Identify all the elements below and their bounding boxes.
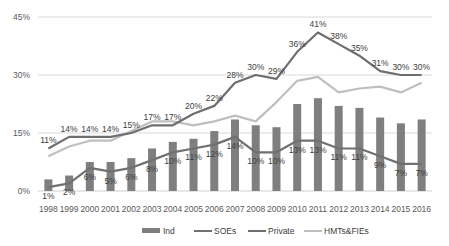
private-data-label: 28% (226, 70, 243, 80)
x-tick-label: 2004 (163, 204, 182, 214)
soes-data-label: 11% (330, 152, 347, 162)
x-tick-label: 2000 (80, 204, 99, 214)
ind-bar (418, 119, 426, 191)
soes-data-label: 6% (125, 172, 138, 182)
x-tick-label: 2001 (101, 204, 120, 214)
legend-ind-label: Ind (163, 226, 175, 236)
ind-bar (190, 139, 198, 191)
private-data-label: 17% (144, 112, 161, 122)
x-tick-label: 2005 (184, 204, 203, 214)
soes-data-label: 11% (351, 152, 368, 162)
x-tick-label: 2015 (391, 204, 410, 214)
x-tick-label: 1998 (39, 204, 58, 214)
legend-soes-label: SOEs (214, 226, 236, 236)
soes-data-label: 7% (395, 168, 408, 178)
legend-ind-swatch (142, 228, 160, 233)
private-data-label: 31% (372, 58, 389, 68)
private-data-label: 15% (123, 120, 140, 130)
soes-data-label: 8% (146, 164, 159, 174)
soes-data-label: 10% (268, 156, 285, 166)
private-data-label: 14% (102, 124, 119, 134)
soes-data-label: 12% (206, 149, 223, 159)
legend-hmts-label: HMTs&FIEs (324, 226, 369, 236)
x-tick-label: 2011 (309, 204, 328, 214)
private-data-label: 11% (40, 135, 57, 145)
soes-data-label: 11% (185, 152, 202, 162)
soes-data-label: 14% (226, 141, 243, 151)
x-axis-ticks: 1998199920002001200220032004200520062007… (39, 204, 431, 214)
private-data-label: 29% (268, 66, 285, 76)
ind-bar (231, 119, 239, 191)
private-data-label: 30% (413, 62, 430, 72)
private-data-label: 22% (206, 93, 223, 103)
soes-data-label: 13% (309, 145, 326, 155)
private-data-label: 14% (81, 124, 98, 134)
private-data-label: 14% (61, 124, 78, 134)
private-data-label: 38% (330, 31, 347, 41)
soes-data-label: 10% (164, 156, 181, 166)
soes-data-label: 7% (415, 168, 428, 178)
private-data-label: 41% (309, 19, 326, 29)
ind-bar (169, 142, 177, 191)
y-tick-label: 45% (13, 12, 30, 22)
ind-bar (210, 131, 218, 191)
private-data-label: 35% (351, 43, 368, 53)
x-tick-label: 2013 (350, 204, 369, 214)
x-tick-label: 2010 (288, 204, 307, 214)
soes-data-label: 10% (247, 156, 264, 166)
y-tick-label: 0% (18, 186, 31, 196)
soes-data-label: 6% (84, 172, 97, 182)
ind-bar (44, 179, 52, 191)
x-tick-label: 2012 (329, 204, 348, 214)
x-tick-label: 1999 (60, 204, 79, 214)
legend: Ind SOEs Private HMTs&FIEs (142, 226, 369, 236)
x-tick-label: 2007 (226, 204, 245, 214)
y-tick-label: 30% (13, 70, 30, 80)
soes-data-label: 1% (42, 191, 55, 201)
soes-data-label: 2% (63, 187, 76, 197)
soes-data-label: 5% (104, 176, 117, 186)
private-data-label: 36% (289, 39, 306, 49)
soes-data-label: 13% (289, 145, 306, 155)
ind-bar (397, 123, 405, 191)
x-tick-label: 2006 (205, 204, 224, 214)
y-axis-ticks: 0%15%30%45% (13, 12, 30, 196)
x-tick-label: 2014 (371, 204, 390, 214)
x-tick-label: 2003 (143, 204, 162, 214)
legend-private-label: Private (268, 226, 295, 236)
x-tick-label: 2008 (246, 204, 265, 214)
private-data-label: 17% (164, 112, 181, 122)
y-tick-label: 15% (13, 128, 30, 138)
private-data-label: 30% (392, 62, 409, 72)
x-tick-label: 2009 (267, 204, 286, 214)
private-data-label: 20% (185, 101, 202, 111)
x-tick-label: 2016 (412, 204, 431, 214)
chart: 0%15%30%45% 11%14%14%14%15%17%17%20%22%2… (0, 0, 449, 246)
x-tick-label: 2002 (122, 204, 141, 214)
private-data-label: 30% (247, 62, 264, 72)
soes-data-label: 9% (374, 160, 387, 170)
